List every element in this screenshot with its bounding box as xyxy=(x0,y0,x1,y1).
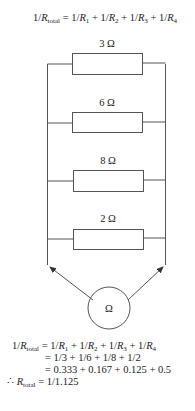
lhs-prefix: 1/ xyxy=(12,340,20,351)
term-prefix: 1/ xyxy=(79,340,87,351)
lhs-sub: total xyxy=(27,345,39,353)
calc-result: ∴ Rtotal = 1/1.125 xyxy=(7,377,78,389)
result-sub: total xyxy=(23,381,35,389)
resistor-1-symbol xyxy=(73,54,143,75)
term-prefix: 1/ xyxy=(138,340,146,351)
resistor-4-symbol xyxy=(74,230,144,250)
resistor-2-symbol xyxy=(73,113,143,133)
term-prefix: 1/ xyxy=(109,340,117,351)
resistor-3-symbol xyxy=(74,171,144,192)
calc-line-1: = 1/3 + 1/6 + 1/8 + 1/2 xyxy=(45,353,141,364)
result-value: = 1/1.125 xyxy=(38,376,78,387)
left-probe-arrow xyxy=(50,267,93,300)
right-probe-arrow xyxy=(128,267,163,300)
meter-symbol: Ω xyxy=(79,303,139,314)
term-sub: 4 xyxy=(153,345,157,353)
calc-line-2: = 0.333 + 0.167 + 0.125 + 0.5 xyxy=(45,365,171,376)
therefore-symbol: ∴ xyxy=(7,376,14,387)
